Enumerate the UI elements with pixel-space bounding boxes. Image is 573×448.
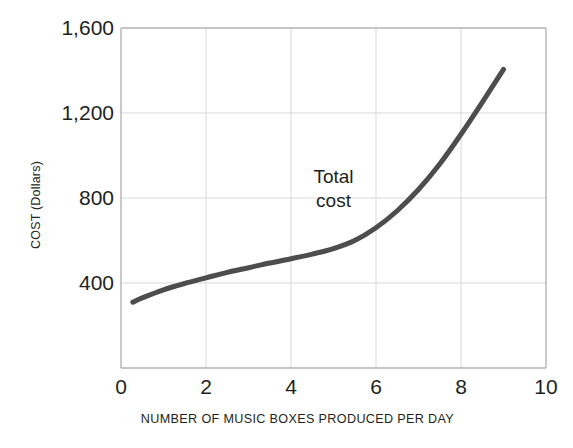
x-axis-title: NUMBER OF MUSIC BOXES PRODUCED PER DAY	[0, 412, 573, 426]
series-annotation-total-cost: Total cost	[290, 165, 378, 213]
annotation-line-1: Total	[313, 166, 353, 187]
plot-area	[0, 0, 573, 448]
chart-container: COST (Dollars) 1,600 1,200 800 400 0 2 4…	[0, 0, 573, 448]
annotation-line-2: cost	[290, 189, 378, 213]
